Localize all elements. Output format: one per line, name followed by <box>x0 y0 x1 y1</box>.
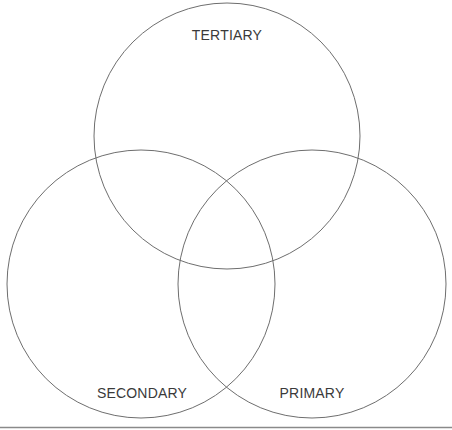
primary-label: PRIMARY <box>280 385 345 401</box>
venn-diagram: TERTIARY SECONDARY PRIMARY <box>0 0 452 430</box>
secondary-label: SECONDARY <box>97 385 188 401</box>
tertiary-label: TERTIARY <box>192 27 263 43</box>
primary-circle <box>178 150 446 418</box>
secondary-circle <box>7 150 275 418</box>
